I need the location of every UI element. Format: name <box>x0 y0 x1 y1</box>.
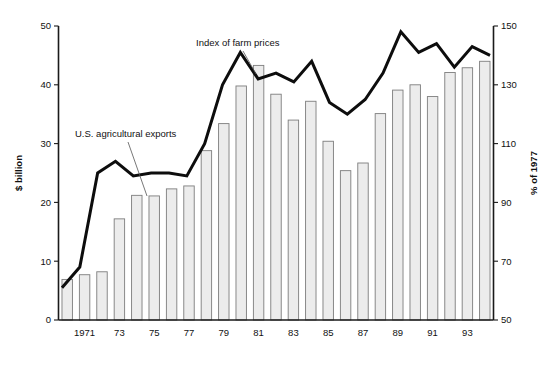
right-tick-label-90: 90 <box>501 197 512 208</box>
bar-1975 <box>149 196 159 320</box>
left-tick-label-10: 10 <box>40 256 51 267</box>
left-tick-label-40: 40 <box>40 79 51 90</box>
x-tick-label-87: 87 <box>358 327 369 338</box>
left-tick-label-30: 30 <box>40 138 51 149</box>
chart-container: 0102030405050709011013015019717375777981… <box>0 0 552 369</box>
annotation-exports-label: U.S. agricultural exports <box>75 128 177 139</box>
bar-1987 <box>358 163 368 320</box>
bar-1979 <box>219 124 229 320</box>
left-tick-label-0: 0 <box>46 314 51 325</box>
bar-1992 <box>445 72 455 320</box>
x-tick-label-85: 85 <box>323 327 334 338</box>
right-tick-label-70: 70 <box>501 256 512 267</box>
bar-1978 <box>201 151 211 320</box>
x-tick-label-91: 91 <box>427 327 438 338</box>
bar-1984 <box>306 101 316 320</box>
bar-1985 <box>323 141 333 320</box>
left-tick-label-20: 20 <box>40 197 51 208</box>
x-tick-label-89: 89 <box>393 327 404 338</box>
bar-1993 <box>462 68 472 320</box>
bar-1981 <box>253 65 263 320</box>
bar-1982 <box>271 94 281 320</box>
x-tick-label-75: 75 <box>149 327 160 338</box>
bar-1991 <box>427 97 437 320</box>
bar-1977 <box>184 186 194 320</box>
x-tick-label-79: 79 <box>219 327 230 338</box>
bar-1976 <box>166 189 176 320</box>
farm-exports-prices-chart: 0102030405050709011013015019717375777981… <box>0 0 552 369</box>
bar-1989 <box>393 90 403 320</box>
x-tick-label-93: 93 <box>462 327 473 338</box>
bar-1973 <box>114 219 124 320</box>
bar-1990 <box>410 85 420 320</box>
annotation-price-index-label: Index of farm prices <box>196 37 280 48</box>
bar-1983 <box>288 120 298 320</box>
x-tick-label-73: 73 <box>114 327 125 338</box>
bar-1980 <box>236 86 246 320</box>
bar-1974 <box>132 195 142 320</box>
x-tick-label-81: 81 <box>253 327 264 338</box>
bar-1986 <box>340 171 350 320</box>
right-tick-label-150: 150 <box>501 20 517 31</box>
bar-1971 <box>79 275 89 320</box>
bar-1988 <box>375 114 385 320</box>
left-axis-title: $ billion <box>13 155 24 191</box>
bar-1994 <box>480 61 490 320</box>
bar-1972 <box>97 272 107 320</box>
left-tick-label-50: 50 <box>40 20 51 31</box>
right-tick-label-110: 110 <box>501 138 516 149</box>
right-tick-label-50: 50 <box>501 314 512 325</box>
x-tick-label-83: 83 <box>288 327 299 338</box>
right-tick-label-130: 130 <box>501 79 517 90</box>
x-tick-label-77: 77 <box>184 327 195 338</box>
x-tick-label-1971: 1971 <box>74 327 95 338</box>
right-axis-title: % of 1977 <box>528 151 539 195</box>
